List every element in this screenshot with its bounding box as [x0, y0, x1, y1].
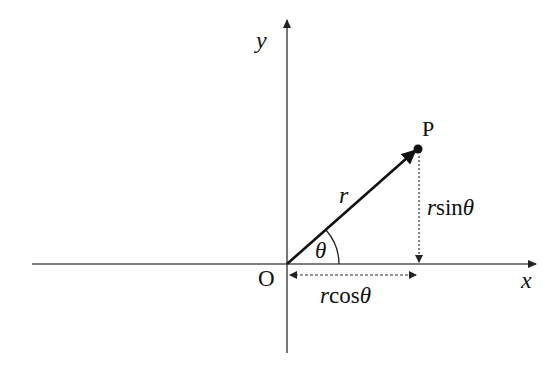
x-axis-label: x [521, 268, 532, 292]
vertical-func: sin [436, 195, 463, 220]
point-p-dot [414, 145, 423, 154]
vertical-component-label: rsinθ [427, 196, 474, 219]
vector-r-label: r [339, 183, 348, 207]
angle-arc [326, 230, 339, 264]
diagram-graphics [0, 0, 558, 378]
origin-label: O [258, 267, 275, 290]
angle-theta-label: θ [315, 239, 326, 262]
horizontal-angle: θ [360, 283, 371, 308]
horizontal-component-label: rcosθ [320, 284, 371, 307]
vertical-angle: θ [463, 195, 474, 220]
y-axis-label: y [256, 28, 267, 52]
polar-coordinate-diagram: y x O P r θ rsinθ rcosθ [0, 0, 558, 378]
horizontal-r: r [320, 283, 329, 308]
vector-r [287, 150, 416, 264]
horizontal-func: cos [329, 283, 360, 308]
vertical-r: r [427, 195, 436, 220]
point-p-label: P [422, 118, 434, 140]
